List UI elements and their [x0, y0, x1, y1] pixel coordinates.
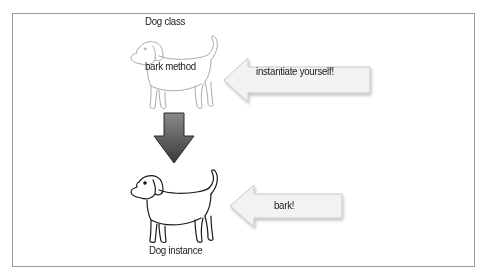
down-arrow-icon — [153, 112, 195, 164]
dog-instance-title: Dog instance — [149, 244, 202, 256]
bark-arrow-label: bark! — [274, 199, 294, 211]
bark-method-label: bark method — [145, 60, 196, 72]
dog-class-icon — [125, 34, 225, 114]
dog-class-title: Dog class — [145, 15, 185, 27]
dog-instance-icon — [125, 168, 225, 248]
instantiate-arrow-label: instantiate yourself! — [256, 65, 334, 77]
instantiate-arrow-icon — [222, 55, 374, 105]
